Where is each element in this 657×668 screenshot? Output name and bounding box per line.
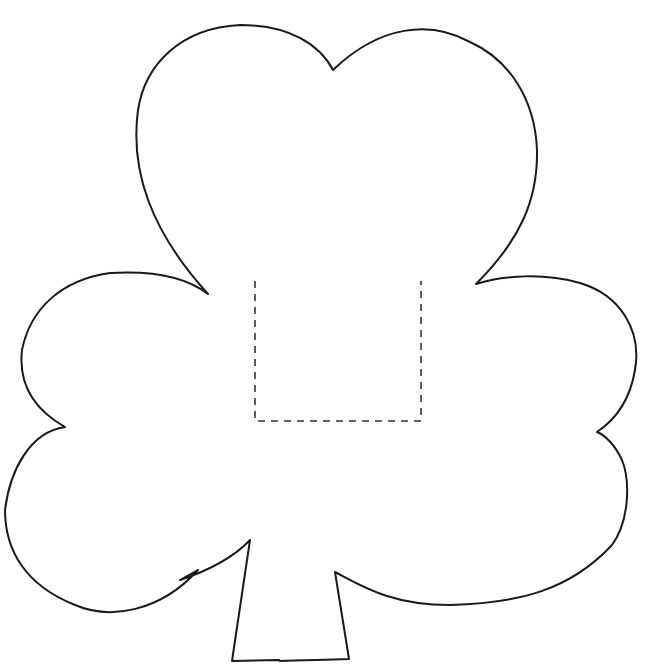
shamrock-canvas xyxy=(0,0,657,668)
shamrock-outline xyxy=(5,25,636,661)
